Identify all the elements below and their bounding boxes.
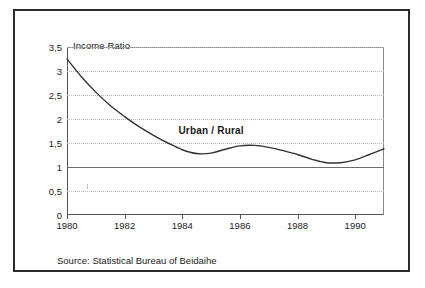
source-note: Source: Statistical Bureau of Beidaihe (57, 255, 216, 266)
y-axis-tick-label: 3,5 (49, 42, 62, 53)
x-axis-tick-mark (355, 215, 356, 219)
x-axis-tick-label: 1986 (229, 220, 250, 231)
x-axis-tick-label: 1990 (345, 220, 366, 231)
stray-tick-mark (87, 184, 88, 189)
x-axis-tick-mark (182, 215, 183, 219)
x-axis-tick-label: 1984 (172, 220, 193, 231)
y-axis-tick-label: 1,5 (49, 138, 62, 149)
y-axis-tick-label: 2,5 (49, 90, 62, 101)
y-axis-tick-label: 3 (57, 66, 62, 77)
x-axis-tick-label: 1980 (56, 220, 77, 231)
x-axis-tick-mark (67, 215, 68, 219)
x-axis-tick-mark (298, 215, 299, 219)
series-annotation-label: Urban / Rural (178, 124, 243, 135)
y-axis-tick-label: 0 (57, 210, 62, 221)
y-axis-tick-label: 0,5 (49, 186, 62, 197)
figure-frame: Income Ratio 00,511,522,533,5 1980198219… (13, 9, 410, 272)
x-axis-tick-mark (125, 215, 126, 219)
income-ratio-chart: Income Ratio 00,511,522,533,5 1980198219… (15, 11, 412, 274)
y-axis-tick-label: 1 (57, 162, 62, 173)
x-axis-tick-label: 1982 (114, 220, 135, 231)
x-axis-tick-mark (240, 215, 241, 219)
y-axis-tick-label: 2 (57, 114, 62, 125)
x-axis-tick-label: 1988 (287, 220, 308, 231)
plot-area: 00,511,522,533,5 19801982198419861988199… (67, 47, 384, 215)
